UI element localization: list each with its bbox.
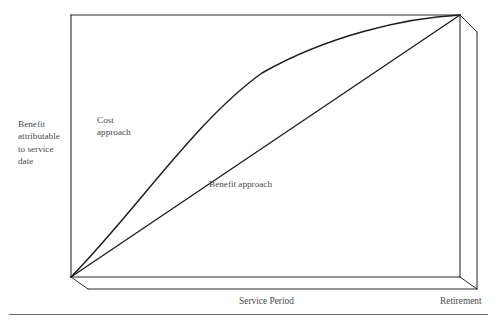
figure-caption	[9, 320, 488, 330]
cost-approach-label: Cost approach	[97, 114, 131, 138]
benefit-approach-label: Benefit approach	[209, 178, 272, 190]
y-axis-label-line-1: Benefit	[18, 118, 74, 130]
y-axis-label-line-2: attributable	[18, 130, 74, 142]
y-axis-label-line-3: to service	[18, 143, 74, 155]
x-axis-end-label: Retirement	[440, 296, 482, 306]
figure-root: Benefit attributable to service date Cos…	[0, 0, 497, 330]
benefit-approach-line	[71, 15, 460, 277]
y-axis-label: Benefit attributable to service date	[18, 118, 74, 168]
depth-edge-bottom-right	[460, 277, 477, 289]
x-axis-label: Service Period	[239, 296, 294, 306]
y-axis-label-line-4: date	[18, 155, 74, 167]
depth-edge-top-right	[460, 15, 477, 32]
cost-approach-label-line-2: approach	[97, 126, 131, 138]
figure-divider-rule	[9, 314, 488, 315]
chart-canvas	[0, 0, 497, 330]
cost-approach-label-line-1: Cost	[97, 114, 131, 126]
depth-edge-bottom-left	[71, 277, 88, 289]
box-depth-edges	[71, 15, 477, 289]
